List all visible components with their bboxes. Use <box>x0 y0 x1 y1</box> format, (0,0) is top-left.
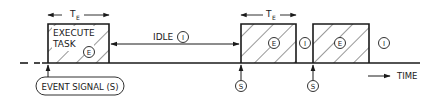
idle-dimension: IDLE I <box>111 32 239 45</box>
execute-task-box-2: E <box>241 24 296 63</box>
svg-text:E: E <box>87 49 91 57</box>
event-signal-label: EVENT SIGNAL (S) <box>42 82 119 92</box>
svg-text:E: E <box>272 40 276 48</box>
timing-diagram: EXECUTE TASK E E E I I IDLE I T E <box>0 0 440 103</box>
idle-label: IDLE <box>153 32 174 42</box>
execute-task-box-3: E <box>313 24 369 63</box>
svg-text:E: E <box>338 40 342 48</box>
svg-text:I: I <box>304 40 306 48</box>
event-signal-3: S <box>308 65 319 92</box>
te-label: T <box>265 9 272 19</box>
svg-text:E: E <box>272 14 276 21</box>
execute-label: EXECUTE <box>53 28 95 38</box>
svg-text:E: E <box>76 14 80 21</box>
idle-marker-1: I <box>300 38 311 49</box>
svg-text:S: S <box>311 83 316 91</box>
svg-text:I: I <box>182 34 184 42</box>
event-signal-2: S <box>236 65 247 92</box>
te-label: T <box>69 9 76 19</box>
event-signal-1: EVENT SIGNAL (S) <box>36 65 124 95</box>
time-direction: TIME <box>368 71 417 81</box>
svg-text:S: S <box>239 83 244 91</box>
svg-text:I: I <box>383 40 385 48</box>
diagram-canvas: EXECUTE TASK E E E I I IDLE I T E <box>0 0 440 103</box>
time-label: TIME <box>396 71 417 81</box>
idle-marker-2: I <box>379 38 390 49</box>
te-dimension-2: T E <box>241 9 296 21</box>
task-label: TASK <box>52 39 77 49</box>
execute-task-box-1: EXECUTE TASK E <box>48 24 109 63</box>
te-dimension-1: T E <box>48 9 109 21</box>
